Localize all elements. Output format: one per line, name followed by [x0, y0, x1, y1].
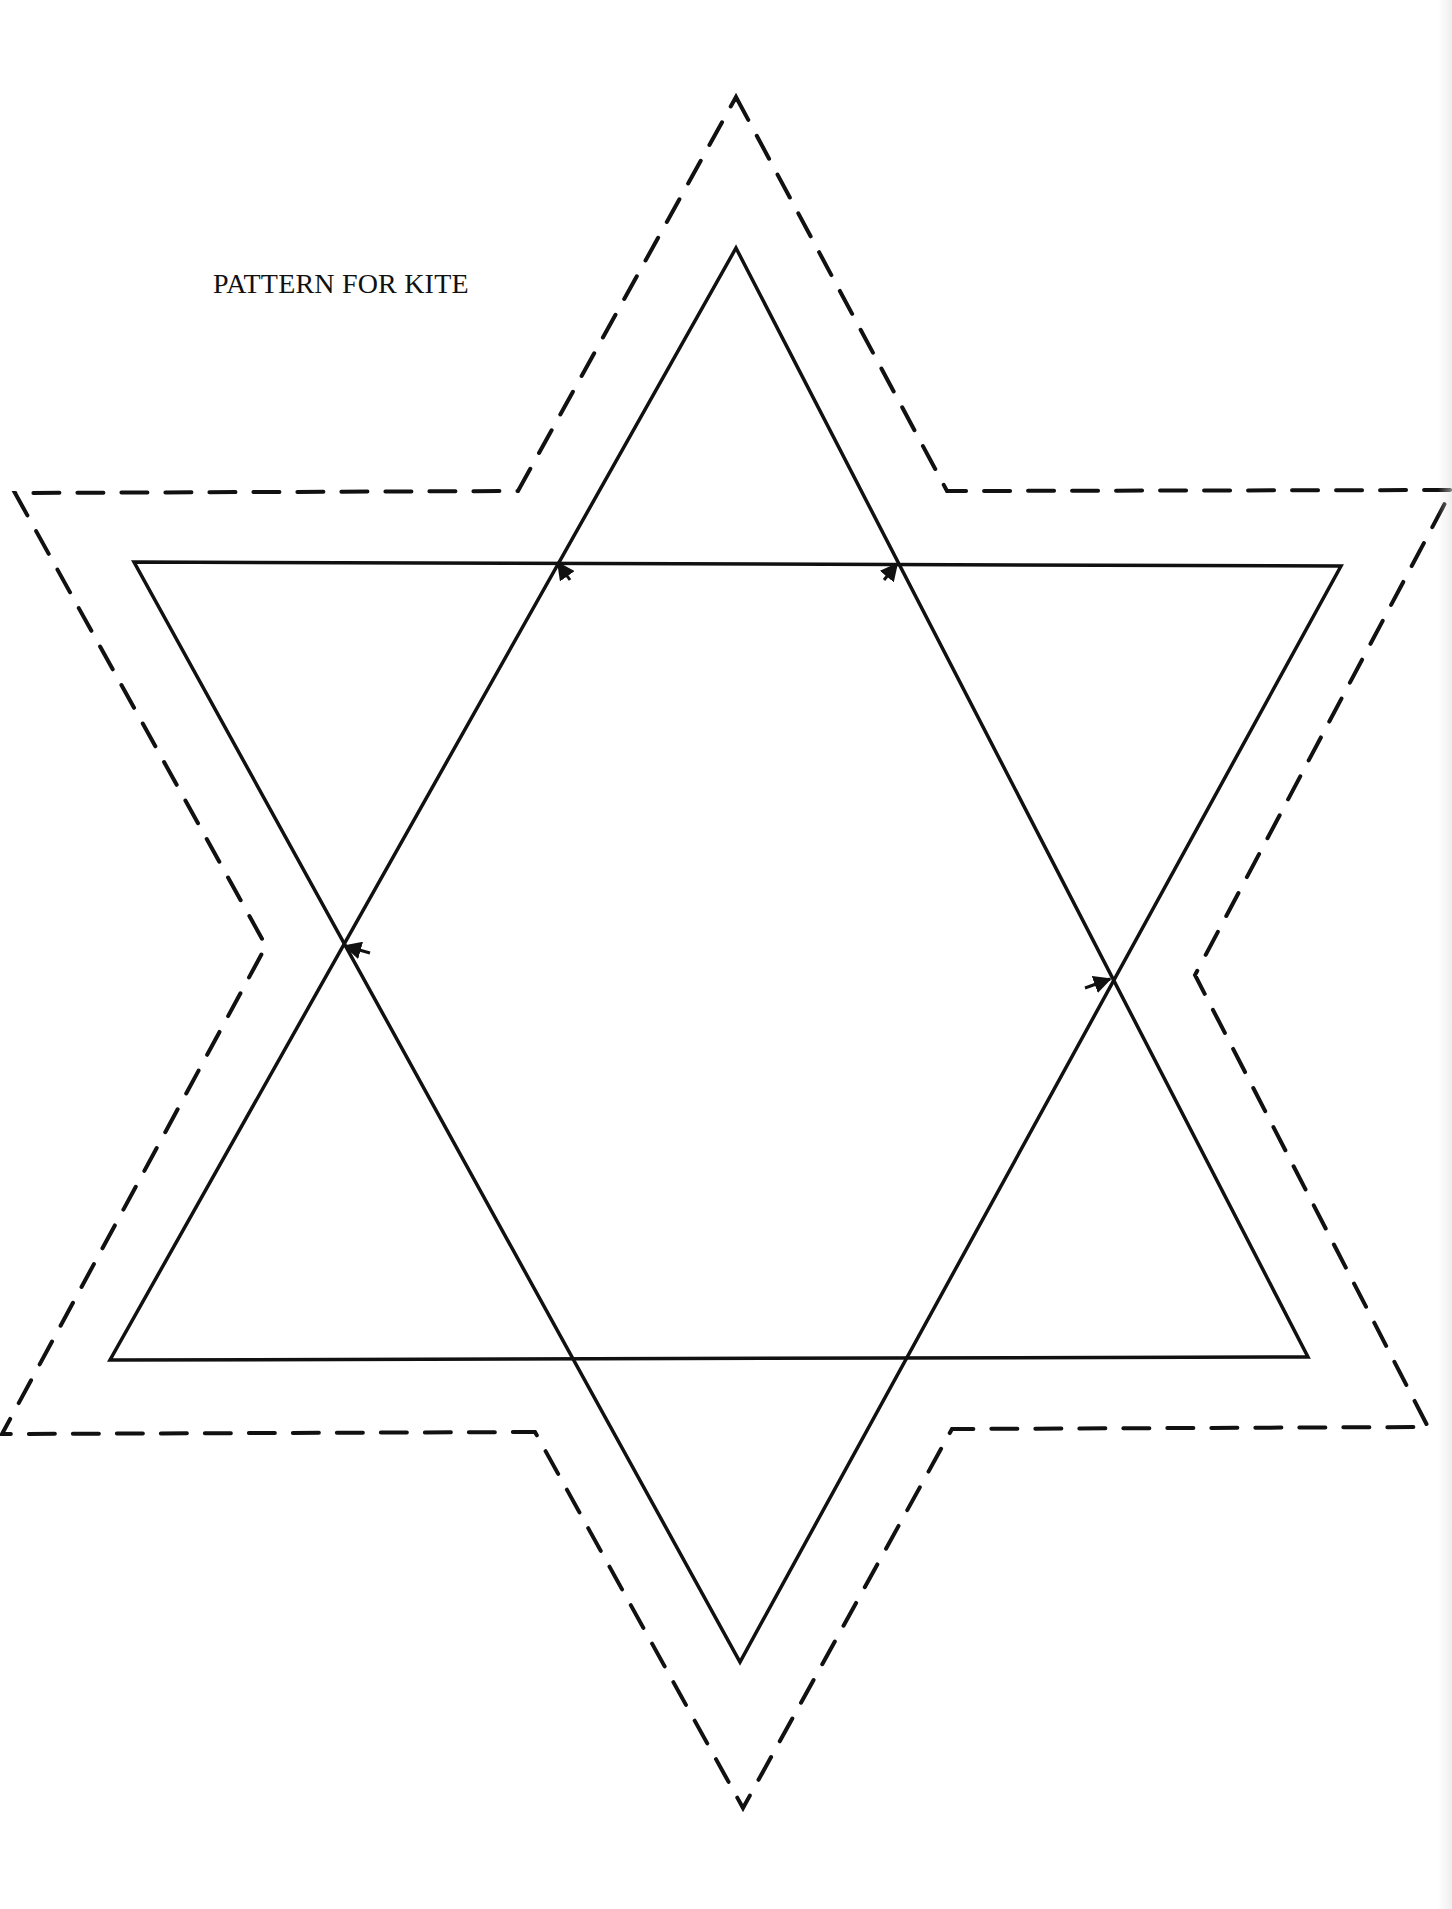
kite-pattern-diagram — [0, 0, 1452, 1909]
outer-dashed-cut-line — [2, 97, 1452, 1808]
arrow-top-right-icon — [884, 564, 897, 580]
arrow-right-icon — [1085, 979, 1110, 988]
downward-triangle-fold-line — [134, 562, 1341, 1662]
kite-pattern-page: PATTERN FOR KITE — [0, 0, 1452, 1909]
upward-triangle-fold-line — [110, 248, 1308, 1360]
scan-edge-shadow — [1438, 0, 1452, 1909]
arrow-top-left-icon — [558, 563, 570, 580]
crossing-arrows — [345, 563, 1110, 988]
